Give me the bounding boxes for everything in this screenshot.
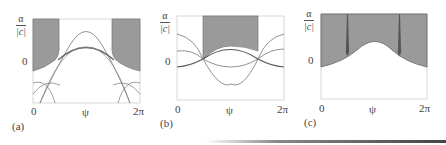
- page-divider: [205, 140, 446, 143]
- xtick-c-0: 0: [319, 103, 325, 114]
- plot-c: [0, 0, 446, 145]
- xtick-c-psi: ψ: [369, 104, 376, 115]
- ytick-c: 0: [308, 55, 314, 66]
- xtick-c-2pi: 2π: [419, 103, 430, 114]
- ylabel-c: α |c|: [304, 9, 314, 32]
- panel-label-c: (c): [304, 117, 316, 128]
